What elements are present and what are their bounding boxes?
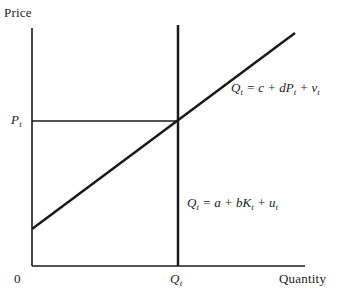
demand-eq-part-2: = a + b	[199, 195, 243, 210]
economics-supply-demand-figure: Price Quantity 0 Pt Qt Qt = c + dPt + vt…	[0, 0, 347, 298]
x-axis-label: Quantity	[279, 272, 326, 285]
equilibrium-price-tick-label: Pt	[11, 113, 22, 126]
supply-eq-part-0: Q	[231, 80, 240, 95]
supply-eq-part-1: t	[240, 87, 243, 97]
demand-eq-part-5: + u	[254, 195, 276, 210]
demand-eq-part-4: t	[251, 202, 254, 212]
origin-label: 0	[14, 272, 21, 285]
supply-eq-part-2: = c + d	[243, 80, 286, 95]
supply-eq-part-5: + v	[296, 80, 317, 95]
price-symbol: P	[11, 112, 19, 127]
demand-eq-part-3: K	[242, 195, 251, 210]
supply-eq-part-3: P	[286, 80, 294, 95]
y-axis-label: Price	[4, 6, 32, 19]
demand-eq-part-0: Q	[187, 195, 196, 210]
equilibrium-quantity-tick-label: Qt	[170, 272, 182, 285]
supply-eq-part-6: t	[317, 87, 320, 97]
demand-equation-annotation: Qt = a + bKt + ut	[187, 196, 278, 209]
price-subscript: t	[19, 119, 22, 129]
supply-eq-part-4: t	[294, 87, 297, 97]
demand-eq-part-1: t	[196, 202, 199, 212]
figure-canvas	[0, 0, 347, 298]
quantity-symbol: Q	[170, 271, 179, 286]
quantity-subscript: t	[179, 278, 182, 288]
demand-eq-part-6: t	[275, 202, 278, 212]
supply-equation-annotation: Qt = c + dPt + vt	[231, 81, 320, 94]
